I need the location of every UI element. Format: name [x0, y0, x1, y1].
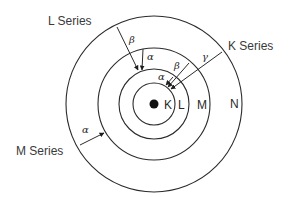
- nucleus: [150, 100, 159, 109]
- greek-label: β: [128, 34, 135, 45]
- shell-l-label: L: [178, 98, 185, 112]
- greek-label: α: [82, 124, 89, 135]
- greek-label: α: [147, 51, 154, 62]
- shell-n-label: N: [230, 97, 239, 111]
- labels: KLMNL SeriesβαK SeriesγβαM Seriesα: [16, 14, 273, 158]
- shell-m-label: M: [197, 98, 207, 112]
- l-series-label: L Series: [48, 14, 92, 28]
- m-series-label: M Series: [16, 144, 63, 158]
- transition-arrow-n-to-l: [117, 27, 138, 70]
- shell-k-label: K: [164, 98, 172, 112]
- greek-label: α: [158, 71, 165, 82]
- greek-label: β: [173, 60, 180, 71]
- transition-arrow-m-to-l: [142, 49, 143, 70]
- atomic-shell-diagram: KLMNL SeriesβαK SeriesγβαM Seriesα: [0, 0, 299, 197]
- nucleus-dot: [150, 100, 159, 109]
- k-series-label: K Series: [228, 39, 273, 53]
- greek-label: γ: [202, 51, 208, 62]
- transition-arrow-l-to-k: [166, 77, 173, 85]
